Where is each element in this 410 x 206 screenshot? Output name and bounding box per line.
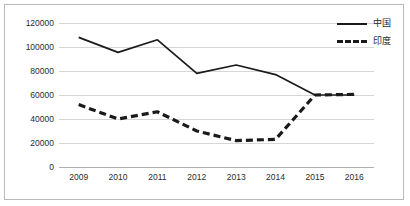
series-line-solid (79, 37, 355, 95)
y-tick-label-80000: 80000 (30, 67, 54, 76)
x-tick-label-2013: 2013 (227, 173, 246, 182)
legend-label-china: 中国 (373, 19, 391, 28)
x-tick-label-2014: 2014 (266, 173, 285, 182)
y-tick-label-0: 0 (49, 163, 54, 172)
legend: 中国 印度 (337, 19, 391, 46)
gridline-0 (59, 167, 374, 168)
y-tick-label-100000: 100000 (26, 43, 54, 52)
chart-container: 020000400006000080000100000120000 200920… (4, 4, 404, 200)
legend-item-china[interactable]: 中国 (337, 19, 391, 28)
x-tick-label-2016: 2016 (345, 173, 364, 182)
x-tick-label-2010: 2010 (109, 173, 128, 182)
y-tick-label-20000: 20000 (30, 139, 54, 148)
y-tick-label-120000: 120000 (26, 19, 54, 28)
plot-area: 020000400006000080000100000120000 200920… (59, 23, 374, 167)
x-tick-label-2012: 2012 (187, 173, 206, 182)
legend-label-india: 印度 (373, 37, 391, 46)
x-tick-label-2009: 2009 (69, 173, 88, 182)
y-tick-label-40000: 40000 (30, 115, 54, 124)
series-layer (59, 23, 374, 167)
x-tick-label-2015: 2015 (305, 173, 324, 182)
legend-swatch-solid-icon (337, 23, 367, 25)
series-line-dashed (79, 94, 355, 140)
legend-swatch-dashed-icon (337, 40, 367, 43)
legend-item-india[interactable]: 印度 (337, 37, 391, 46)
y-tick-label-60000: 60000 (30, 91, 54, 100)
x-tick-label-2011: 2011 (148, 173, 166, 182)
